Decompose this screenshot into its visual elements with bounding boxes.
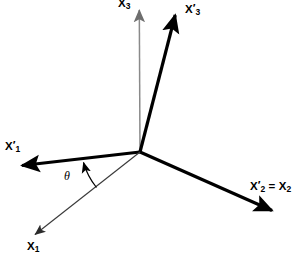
angle-label-theta: θ (64, 170, 70, 182)
axis-label-x1-prime-base: X (5, 140, 13, 152)
axis-line-x3 (139, 10, 140, 152)
axis-label-x3-prime: X′3 (185, 3, 200, 17)
axis-label-x2-sub: 2 (286, 184, 291, 194)
axis-label-x1-prime: X′1 (5, 140, 20, 154)
axis-label-x3-prime-base: X (185, 3, 193, 15)
axis-line-x1-prime (22, 152, 140, 166)
axis-label-x3-prime-sub: 3 (196, 7, 201, 17)
axis-label-x3: X3 (118, 0, 131, 11)
axis-label-x1: X1 (27, 241, 40, 254)
axis-label-x1-base: X (27, 240, 35, 252)
axis-label-x2-prime-base: X (250, 180, 258, 192)
theta-arc (84, 163, 97, 188)
axis-label-x3-base: X (118, 0, 126, 9)
axis-label-x1-prime-sub: 1 (16, 144, 21, 154)
axis-rotation-diagram: X3 X′3 X′1 X′2 = X2 X1 θ (0, 0, 305, 265)
axis-label-x3-sub: 3 (126, 1, 131, 11)
axis-line-x3-prime (140, 15, 175, 152)
axis-label-x1-sub: 1 (35, 244, 40, 254)
axis-label-equals-sign: = (265, 180, 278, 192)
axes-svg (0, 0, 305, 265)
axis-line-x1 (35, 152, 140, 235)
axis-label-x2-prime-equals-x2: X′2 = X2 (250, 180, 291, 194)
